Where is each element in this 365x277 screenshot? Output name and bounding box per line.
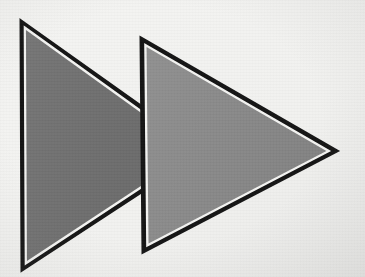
shapes-svg <box>0 0 365 277</box>
image-canvas <box>0 0 365 277</box>
